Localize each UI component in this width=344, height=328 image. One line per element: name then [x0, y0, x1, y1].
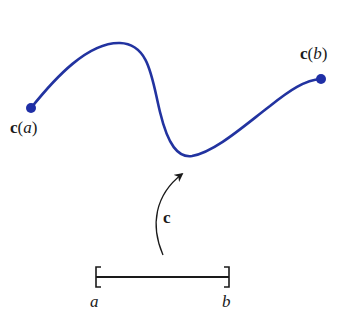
end-label-arg: b: [313, 44, 322, 63]
curve-path: [31, 43, 321, 156]
diagram-canvas: [0, 0, 344, 328]
interval-right-label: b: [222, 292, 231, 312]
start-label-arg: a: [23, 118, 32, 137]
end-label: c(b): [300, 44, 327, 64]
end-label-func: c: [300, 44, 308, 63]
interval-left-label: a: [90, 292, 99, 312]
start-label: c(a): [10, 118, 37, 138]
start-label-func: c: [10, 118, 18, 137]
start-point-dot: [26, 103, 36, 113]
map-arrow-label: c: [163, 208, 171, 228]
end-point-dot: [316, 74, 326, 84]
